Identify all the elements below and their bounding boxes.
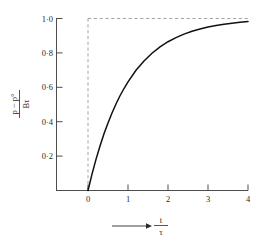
y-tick-label-0-2: 0·2 xyxy=(42,151,53,161)
y-tick-label-0-8: 0·8 xyxy=(42,48,53,58)
x-tick-label-0: 0 xyxy=(86,194,90,204)
y-tick-label-1-0: 1·0 xyxy=(42,14,53,24)
y-axis-label-denominator: Bτ xyxy=(21,99,31,109)
x-axis-tick-labels: 0 1 2 3 4 xyxy=(86,194,251,204)
chart-canvas: 1·0 0·8 0·6 0·4 0·2 p − p° Bτ 0 1 2 3 xyxy=(0,0,262,241)
x-tick-label-4: 4 xyxy=(246,194,251,204)
y-tick-label-0-6: 0·6 xyxy=(42,82,53,92)
data-series-curve xyxy=(88,22,248,191)
x-axis-label-arrow-head xyxy=(146,223,152,229)
y-tick-label-0-4: 0·4 xyxy=(42,117,54,127)
x-axis-label-numerator: t xyxy=(160,215,163,225)
chart-figure: 1·0 0·8 0·6 0·4 0·2 p − p° Bτ 0 1 2 3 xyxy=(0,0,262,241)
y-axis-label: p − p° Bτ xyxy=(9,90,31,118)
x-tick-label-2: 2 xyxy=(166,194,170,204)
x-axis-label-denominator: τ xyxy=(159,227,163,237)
x-tick-label-1: 1 xyxy=(126,194,130,204)
x-tick-label-3: 3 xyxy=(206,194,210,204)
y-axis-label-numerator: p − p° xyxy=(9,94,19,115)
y-axis-ticks xyxy=(57,19,63,157)
x-axis-label: t τ xyxy=(112,215,168,237)
y-axis-tick-labels: 1·0 0·8 0·6 0·4 0·2 xyxy=(42,14,54,162)
x-axis-ticks xyxy=(88,185,248,191)
